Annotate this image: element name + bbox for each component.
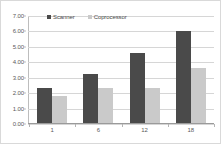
y-axis-tick-mark bbox=[24, 108, 26, 109]
y-axis-tick-mark bbox=[24, 77, 26, 78]
x-axis-tick-label: 1 bbox=[29, 127, 75, 133]
bar-scanner-1[interactable] bbox=[37, 88, 52, 123]
y-axis-tick-mark bbox=[24, 62, 26, 63]
x-axis-tick-label: 6 bbox=[75, 127, 121, 133]
y-axis-tick-mark bbox=[24, 31, 26, 32]
y-axis-tick-label: 6.00 bbox=[13, 28, 24, 34]
legend-swatch-icon-coprocessor bbox=[88, 15, 92, 19]
bar-coprocessor-18[interactable] bbox=[191, 68, 206, 123]
bar-group bbox=[75, 16, 121, 123]
bar-coprocessor-6[interactable] bbox=[98, 88, 113, 123]
bar-scanner-6[interactable] bbox=[83, 74, 98, 123]
x-axis-tick-label: 18 bbox=[168, 127, 214, 133]
y-axis-tick-mark bbox=[24, 16, 26, 17]
bar-scanner-12[interactable] bbox=[130, 53, 145, 123]
y-axis-tick-mark bbox=[24, 124, 26, 125]
chart-legend: Scanner Coprocessor bbox=[47, 14, 127, 20]
x-axis-tick-mark bbox=[214, 124, 215, 127]
bars-layer bbox=[29, 16, 214, 123]
y-axis: 7.006.005.004.003.002.001.000.00 bbox=[1, 16, 26, 124]
y-axis-tick-label: 5.00 bbox=[13, 44, 24, 50]
bar-group bbox=[168, 16, 214, 123]
bar-chart-figure: Scanner Coprocessor 7.006.005.004.003.00… bbox=[0, 0, 221, 144]
legend-item-scanner[interactable]: Scanner bbox=[47, 14, 75, 20]
x-axis-tick-label: 12 bbox=[122, 127, 168, 133]
legend-label-scanner: Scanner bbox=[53, 14, 75, 20]
y-axis-tick-label: 1.00 bbox=[13, 106, 24, 112]
bar-group bbox=[122, 16, 168, 123]
bar-scanner-18[interactable] bbox=[176, 31, 191, 123]
x-axis: 161218 bbox=[29, 127, 214, 133]
y-axis-tick-label: 2.00 bbox=[13, 90, 24, 96]
plot-area bbox=[28, 16, 214, 124]
y-axis-tick-label: 4.00 bbox=[13, 59, 24, 65]
y-axis-tick-label: 7.00 bbox=[13, 13, 24, 19]
legend-swatch-icon-scanner bbox=[47, 15, 51, 19]
legend-label-coprocessor: Coprocessor bbox=[94, 14, 127, 20]
y-axis-tick-mark bbox=[24, 46, 26, 47]
y-axis-tick-label: 0.00 bbox=[13, 121, 24, 127]
bar-coprocessor-12[interactable] bbox=[145, 88, 160, 123]
bar-coprocessor-1[interactable] bbox=[52, 96, 67, 123]
y-axis-tick-label: 3.00 bbox=[13, 75, 24, 81]
bar-group bbox=[29, 16, 75, 123]
legend-item-coprocessor[interactable]: Coprocessor bbox=[88, 14, 127, 20]
y-axis-tick-mark bbox=[24, 93, 26, 94]
